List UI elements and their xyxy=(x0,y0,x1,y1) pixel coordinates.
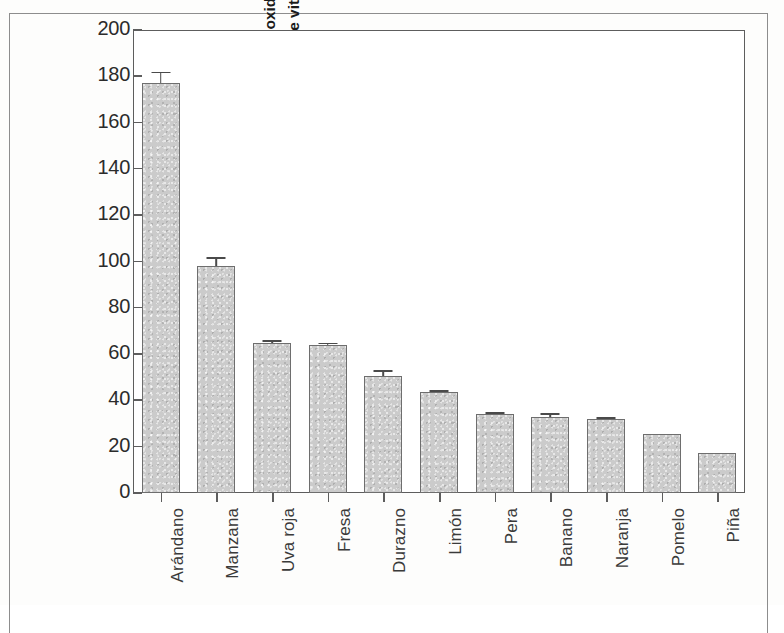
x-axis-tick-mark xyxy=(550,493,552,502)
error-bar-cap xyxy=(151,72,170,74)
bar xyxy=(364,376,402,493)
x-axis-tick-mark xyxy=(328,493,330,502)
x-axis-tick-mark xyxy=(495,493,497,502)
bar-slot xyxy=(133,30,189,493)
x-axis-tick-mark xyxy=(662,493,664,502)
x-axis-tick-mark xyxy=(272,493,274,502)
y-axis-tick-label: 140 xyxy=(98,156,130,179)
y-axis-tick-label: 0 xyxy=(119,480,130,503)
x-axis-tick-label: Durazno xyxy=(390,508,410,573)
bar-slot xyxy=(244,30,300,493)
bar xyxy=(420,392,458,493)
bar-slot xyxy=(356,30,412,493)
x-axis-tick-label: Fresa xyxy=(335,508,355,552)
x-axis-tick-mark xyxy=(216,493,218,502)
y-axis-tick-label: 200 xyxy=(98,17,130,40)
bar xyxy=(698,453,736,494)
bar-slot xyxy=(578,30,634,493)
bar-slot xyxy=(467,30,523,493)
bar-slot xyxy=(411,30,467,493)
error-bar-cap xyxy=(207,257,226,259)
error-bar-cap xyxy=(263,340,282,342)
bar xyxy=(531,417,569,493)
y-axis-tick-label: 80 xyxy=(108,295,130,318)
y-axis-tick-label: 40 xyxy=(108,387,130,410)
plot-area: 020406080100120140160180200 xyxy=(133,30,745,493)
x-axis-tick-mark xyxy=(383,493,385,502)
x-axis-tick-mark xyxy=(606,493,608,502)
x-axis-tick-label: Piña xyxy=(724,508,744,542)
bar xyxy=(253,343,291,493)
bar-slot xyxy=(300,30,356,493)
bar xyxy=(309,345,347,493)
x-axis-tick-mark xyxy=(717,493,719,502)
y-axis-tick-label: 180 xyxy=(98,63,130,86)
bar xyxy=(197,266,235,493)
bar-slot xyxy=(689,30,745,493)
bar-slot xyxy=(634,30,690,493)
bar xyxy=(142,83,180,493)
x-axis-tick-mark xyxy=(161,493,163,502)
error-bar-cap xyxy=(318,343,337,345)
x-axis-tick-label: Uva roja xyxy=(279,508,299,572)
error-bar-cap xyxy=(596,417,615,419)
y-axis-tick-label: 120 xyxy=(98,202,130,225)
y-axis-tick-label: 60 xyxy=(108,341,130,364)
error-bar-cap xyxy=(485,412,504,414)
x-axis-tick-mark xyxy=(439,493,441,502)
x-axis-tick-label: Banano xyxy=(557,508,577,567)
x-axis-tick-label: Limón xyxy=(446,508,466,555)
y-axis-tick-label: 100 xyxy=(98,249,130,272)
y-axis-tick-label: 160 xyxy=(98,110,130,133)
bar xyxy=(476,414,514,493)
x-axis-tick-label: Arándano xyxy=(168,508,188,583)
error-bar-cap xyxy=(374,370,393,372)
y-axis-tick-label: 20 xyxy=(108,434,130,457)
bar xyxy=(587,419,625,493)
x-axis-tick-label: Manzana xyxy=(223,508,243,579)
x-axis-tick-label: Pera xyxy=(502,508,522,544)
error-bar-cap xyxy=(541,413,560,415)
error-bar-cap xyxy=(429,390,448,392)
bar-slot xyxy=(522,30,578,493)
x-axis-tick-label: Pomelo xyxy=(669,508,689,566)
x-axis-tick-label: Naranja xyxy=(613,508,633,568)
bar xyxy=(643,434,681,493)
bar-slot xyxy=(189,30,245,493)
